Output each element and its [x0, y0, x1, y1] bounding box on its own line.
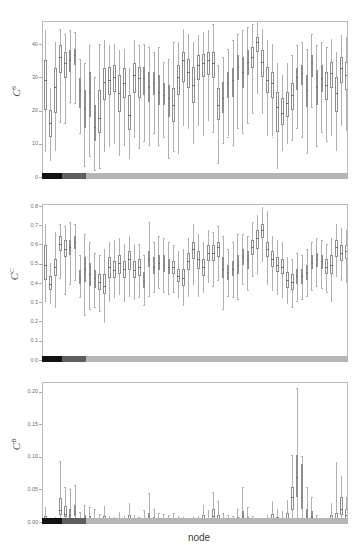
cap-upper	[346, 497, 347, 498]
y-tick-label: 0.8	[8, 203, 38, 209]
y-tick-label: 0.7	[8, 222, 38, 228]
panel-bottom: CB 0.000.050.100.150.20 node	[0, 382, 358, 522]
y-tick-label: 0.05	[8, 486, 38, 492]
group-band-segment	[62, 173, 87, 179]
plot-area-middle	[43, 205, 347, 359]
y-tick-mark	[39, 225, 42, 226]
y-tick-label: 0.5	[8, 260, 38, 266]
y-tick-label: 0.3	[8, 299, 38, 305]
median-line	[345, 251, 347, 252]
y-tick-label: 40	[8, 41, 38, 47]
panel-top: CS 010203040	[0, 21, 358, 177]
median-line	[345, 75, 347, 76]
group-colour-band	[42, 173, 348, 179]
whisker-upper	[346, 230, 347, 245]
y-tick-label: 0.10	[8, 453, 38, 459]
cap-upper	[346, 37, 347, 38]
y-tick-label: 30	[8, 74, 38, 80]
whisker-upper	[346, 37, 347, 62]
median-line	[345, 515, 347, 516]
plot-frame-top	[42, 21, 348, 177]
y-tick-mark	[39, 321, 42, 322]
y-tick-label: 20	[8, 107, 38, 113]
y-tick-mark	[39, 44, 42, 45]
group-band-segment	[42, 356, 62, 362]
y-tick-mark	[39, 392, 42, 393]
y-tick-mark	[39, 264, 42, 265]
cap-lower	[346, 130, 347, 131]
y-tick-mark	[39, 111, 42, 112]
group-band-segment	[86, 173, 348, 179]
y-tick-label: 0.4	[8, 280, 38, 286]
box-plot-item	[43, 205, 347, 359]
group-colour-band	[42, 356, 348, 362]
cap-lower	[346, 282, 347, 283]
y-tick-label: 10	[8, 140, 38, 146]
plot-frame-bottom	[42, 382, 348, 522]
y-tick-mark	[39, 341, 42, 342]
figure-canvas: CS 010203040 CC 0.00.10.20.30.40.50.60.7…	[0, 0, 358, 558]
group-band-segment	[86, 518, 348, 524]
plot-area-bottom	[43, 383, 347, 521]
y-tick-label: 0.1	[8, 337, 38, 343]
y-tick-label: 0.20	[8, 388, 38, 394]
box-plot-item	[43, 383, 347, 521]
y-tick-mark	[39, 144, 42, 145]
y-axis-label-bottom-base: C	[10, 443, 22, 450]
whisker-lower	[346, 90, 347, 130]
y-tick-mark	[39, 424, 42, 425]
cap-upper	[346, 230, 347, 231]
panel-middle: CC 0.00.10.20.30.40.50.60.70.8	[0, 204, 358, 360]
y-axis-label-top-sup: S	[10, 86, 18, 90]
y-tick-mark	[39, 457, 42, 458]
group-band-segment	[42, 518, 62, 524]
y-tick-mark	[39, 244, 42, 245]
y-axis-label-bottom-sup: B	[10, 439, 18, 443]
y-tick-label: 0.00	[8, 519, 38, 525]
plot-area-top	[43, 22, 347, 176]
whisker-lower	[346, 259, 347, 282]
y-tick-label: 0	[8, 174, 38, 180]
y-axis-label-middle-sup: C	[8, 268, 16, 273]
y-tick-mark	[39, 283, 42, 284]
y-tick-mark	[39, 206, 42, 207]
group-band-segment	[42, 173, 62, 179]
group-band-segment	[62, 356, 87, 362]
box-plot-item	[43, 22, 347, 176]
y-tick-label: 0.2	[8, 318, 38, 324]
y-tick-label: 0.15	[8, 421, 38, 427]
y-tick-mark	[39, 489, 42, 490]
whisker-upper	[346, 497, 347, 509]
y-tick-label: 0.0	[8, 357, 38, 363]
x-axis-label: node	[20, 532, 358, 543]
group-colour-band	[42, 518, 348, 524]
y-tick-mark	[39, 302, 42, 303]
plot-frame-middle	[42, 204, 348, 360]
y-axis-label-top-base: C	[10, 89, 22, 96]
group-band-segment	[62, 518, 87, 524]
group-band-segment	[86, 356, 348, 362]
y-tick-mark	[39, 77, 42, 78]
y-tick-label: 0.6	[8, 241, 38, 247]
